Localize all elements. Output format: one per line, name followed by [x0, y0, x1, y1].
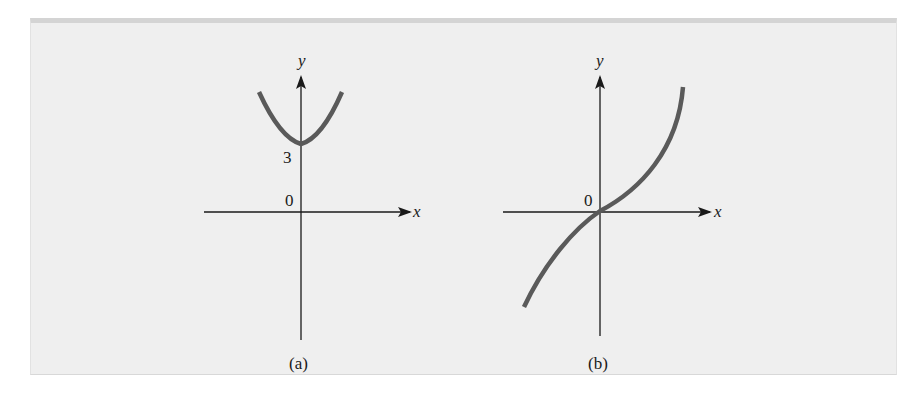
figure-graphs: y x 0 3 (a) y x 0 (b): [0, 0, 924, 395]
graph-a: y x 0 3 (a): [204, 51, 421, 373]
graph-b: y x 0 (b): [503, 51, 722, 373]
origin-label-b: 0: [584, 191, 593, 210]
caption-b: (b): [588, 354, 608, 373]
x-axis-label-a: x: [412, 202, 421, 221]
x-axis-label-b: x: [713, 202, 722, 221]
origin-label-a: 0: [285, 191, 294, 210]
y-axis-label-a: y: [296, 51, 306, 70]
y-axis-label-b: y: [594, 51, 604, 70]
caption-a: (a): [289, 354, 308, 373]
increasing-curve: [524, 87, 683, 307]
y-intercept-label: 3: [283, 148, 292, 167]
